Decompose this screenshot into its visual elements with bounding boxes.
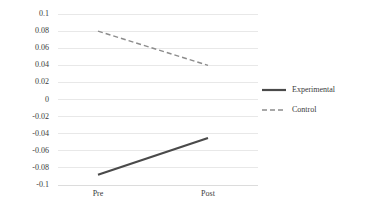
legend-label: Experimental (292, 86, 335, 94)
x-axis-tick-label: Post (201, 190, 215, 198)
line-chart: 0.10.080.060.040.020-0.02-0.04-0.06-0.08… (0, 0, 365, 213)
legend-label: Control (292, 106, 316, 114)
legend-entry[interactable]: Experimental (262, 80, 362, 100)
legend-swatch-control (262, 105, 286, 115)
legend-swatch-experimental (262, 85, 286, 95)
x-axis-tick-label: Pre (93, 190, 104, 198)
chart-legend: ExperimentalControl (262, 80, 362, 120)
legend-entry[interactable]: Control (262, 100, 362, 120)
